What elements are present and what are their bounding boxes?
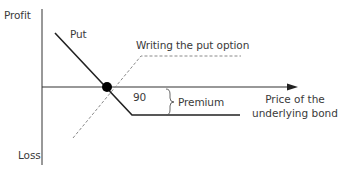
- writer-series-label: Writing the put option: [136, 40, 249, 51]
- strike-price-label: 90: [133, 92, 146, 103]
- premium-label: Premium: [178, 97, 224, 108]
- x-axis-label-line2: underlying bond: [240, 106, 346, 120]
- premium-brace-icon: [166, 89, 174, 115]
- x-axis-arrow-icon: [287, 84, 298, 91]
- x-axis-label: Price of the underlying bond: [240, 92, 346, 120]
- payoff-diagram: [0, 0, 346, 173]
- y-axis-profit-label: Profit: [4, 10, 31, 21]
- put-series-label: Put: [70, 29, 87, 40]
- y-axis-loss-label: Loss: [18, 150, 41, 161]
- breakeven-dot: [102, 82, 112, 92]
- x-axis-label-line1: Price of the: [240, 92, 346, 106]
